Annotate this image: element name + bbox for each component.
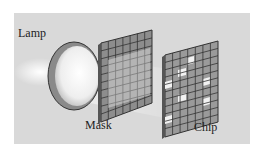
- lamp-label: Lamp: [18, 26, 46, 41]
- mask-label: Mask: [85, 118, 112, 133]
- chip-label: Chip: [194, 120, 217, 135]
- photolithography-diagram: [0, 0, 261, 150]
- lamp-icon: [48, 42, 100, 110]
